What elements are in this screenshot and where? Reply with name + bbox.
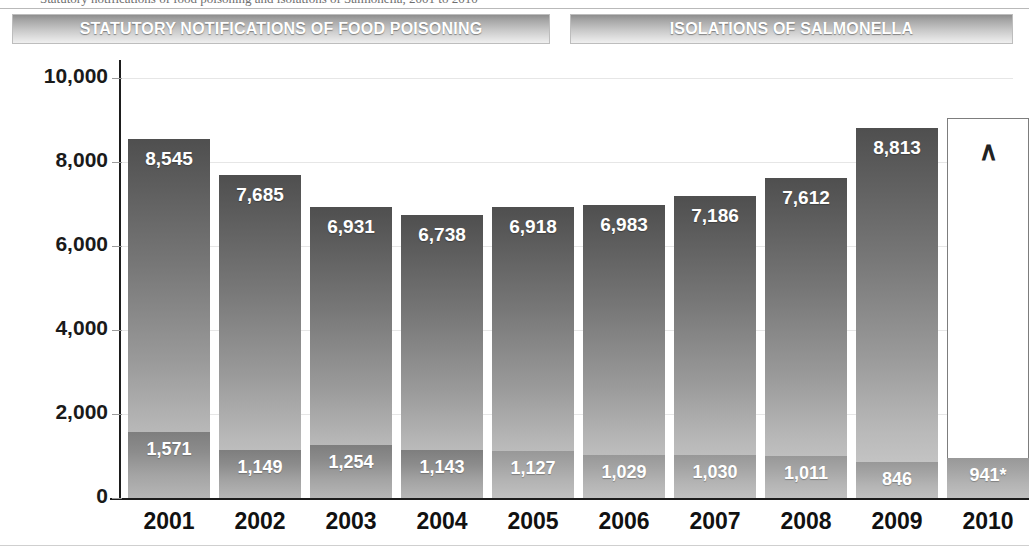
footer-divider (0, 545, 1029, 546)
bar-value-label-food-poisoning: 6,918 (492, 216, 574, 238)
bar-value-label-salmonella: 1,029 (583, 462, 665, 483)
y-axis-tick-label: 4,000 (4, 316, 108, 340)
y-axis-tickmark (112, 414, 122, 415)
bar-food-poisoning-unavailable[interactable] (947, 118, 1029, 498)
x-axis-tick-label: 2007 (674, 508, 756, 535)
y-axis-tick-label: 0 (4, 484, 108, 508)
bar-value-label-salmonella: 1,143 (401, 457, 483, 478)
bar-value-label-salmonella: 1,149 (219, 457, 301, 478)
x-axis-tick-label: 2006 (583, 508, 665, 535)
value-unavailable-caret-icon: ∧ (947, 138, 1029, 164)
bar-value-label-salmonella: 1,571 (128, 439, 210, 460)
x-axis-tick-label: 2009 (856, 508, 938, 535)
bar-value-label-food-poisoning: 7,186 (674, 205, 756, 227)
bar-value-label-salmonella: 846 (856, 469, 938, 490)
y-axis-tickmark (112, 498, 122, 499)
bar-group[interactable]: ∧941* (947, 78, 1029, 498)
bar-group[interactable]: 6,9311,254 (310, 78, 392, 498)
bar-value-label-food-poisoning: 8,813 (856, 137, 938, 159)
bar-value-label-salmonella: 941* (947, 465, 1029, 486)
x-axis-tick-label: 2008 (765, 508, 847, 535)
bar-value-label-food-poisoning: 7,685 (219, 184, 301, 206)
y-axis-line (119, 60, 121, 500)
x-axis-tick-label: 2005 (492, 508, 574, 535)
x-axis-tick-label: 2010 (947, 508, 1029, 535)
bar-value-label-food-poisoning: 8,545 (128, 148, 210, 170)
bar-group[interactable]: 7,1861,030 (674, 78, 756, 498)
y-axis-tickmark (112, 78, 122, 79)
bar-value-label-food-poisoning: 6,931 (310, 216, 392, 238)
bar-value-label-food-poisoning: 6,983 (583, 214, 665, 236)
bar-food-poisoning[interactable] (765, 178, 847, 498)
y-axis-tickmark (112, 330, 122, 331)
bar-group[interactable]: 8,5451,571 (128, 78, 210, 498)
x-axis-baseline (110, 498, 1029, 500)
bar-group[interactable]: 7,6121,011 (765, 78, 847, 498)
y-axis-tickmark (112, 246, 122, 247)
x-axis-tick-label: 2004 (401, 508, 483, 535)
y-axis-tickmark (112, 162, 122, 163)
bar-food-poisoning[interactable] (856, 128, 938, 498)
bar-food-poisoning[interactable] (674, 196, 756, 498)
y-axis-tick-label: 8,000 (4, 148, 108, 172)
bar-group[interactable]: 6,7381,143 (401, 78, 483, 498)
bar-group[interactable]: 7,6851,149 (219, 78, 301, 498)
bar-value-label-salmonella: 1,011 (765, 463, 847, 484)
x-axis-tick-label: 2001 (128, 508, 210, 535)
y-axis-tick-label: 10,000 (4, 64, 108, 88)
bar-group[interactable]: 8,813846 (856, 78, 938, 498)
y-axis-tick-label: 2,000 (4, 400, 108, 424)
bar-value-label-salmonella: 1,030 (674, 462, 756, 483)
y-axis-tick-label: 6,000 (4, 232, 108, 256)
x-axis-tick-label: 2002 (219, 508, 301, 535)
bar-value-label-salmonella: 1,254 (310, 452, 392, 473)
x-axis-tick-label: 2003 (310, 508, 392, 535)
bar-chart-plot-area: 02,0004,0006,0008,00010,0008,5451,571200… (0, 0, 1029, 555)
bar-value-label-salmonella: 1,127 (492, 458, 574, 479)
bar-group[interactable]: 6,9831,029 (583, 78, 665, 498)
bar-value-label-food-poisoning: 6,738 (401, 224, 483, 246)
bar-value-label-food-poisoning: 7,612 (765, 187, 847, 209)
bar-group[interactable]: 6,9181,127 (492, 78, 574, 498)
